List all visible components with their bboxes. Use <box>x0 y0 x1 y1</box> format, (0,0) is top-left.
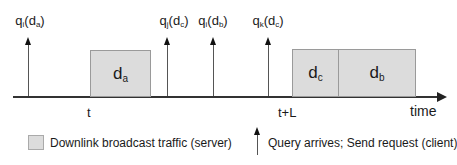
legend-broadcast-swatch <box>28 135 44 150</box>
tick-label-t-plus-l: t+L <box>278 105 296 120</box>
query-arrow-line <box>213 44 214 96</box>
query-label-qj-dc: qj(dc) <box>160 13 189 29</box>
query-label-qk-dc: qk(dc) <box>252 13 283 29</box>
arrow-up-icon <box>254 127 260 135</box>
broadcast-box-dc: dc <box>292 49 339 97</box>
query-label-qi-da: qi(da) <box>15 13 44 29</box>
broadcast-box-db: db <box>338 49 416 97</box>
box-label-db: db <box>339 63 415 83</box>
box-label-dc: dc <box>293 63 338 83</box>
query-arrow-line <box>167 44 168 96</box>
axis-label-time: time <box>410 103 436 119</box>
arrow-up-icon <box>210 37 216 45</box>
query-arrow-line <box>268 44 269 96</box>
tick-label-t: t <box>87 105 91 120</box>
arrow-up-icon <box>25 37 31 45</box>
query-arrow-line <box>28 44 29 96</box>
arrow-up-icon <box>265 37 271 45</box>
query-label-qi-db: qi(db) <box>198 13 227 29</box>
legend-arrow-line <box>257 133 258 155</box>
legend-broadcast-label: Downlink broadcast traffic (server) <box>50 136 232 150</box>
box-label-da: da <box>91 64 150 84</box>
legend-query-label: Query arrives; Send request (client) <box>268 136 457 150</box>
axis-arrow-icon <box>437 92 447 102</box>
arrow-up-icon <box>164 37 170 45</box>
broadcast-box-da: da <box>90 50 151 97</box>
